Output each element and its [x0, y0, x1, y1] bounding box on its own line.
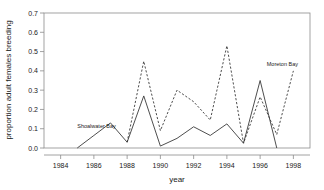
x-tick-label: 1990 [153, 162, 169, 169]
y-tick-label: 0.3 [28, 87, 38, 94]
x-axis-group: 19841986198819901992199419961998 [44, 155, 310, 169]
y-axis-title: proportion adult females breeding [4, 20, 13, 139]
series-annotation-shoalwater-bay: Shoalwater Bay [77, 123, 116, 129]
y-tick-label: 0.7 [28, 10, 38, 17]
x-axis-title: year [169, 175, 185, 184]
x-tick-label: 1988 [119, 162, 135, 169]
annotation-group: Shoalwater BayMoreton Bay [77, 61, 298, 129]
series-group [77, 46, 293, 148]
y-tick-label: 0.0 [28, 145, 38, 152]
y-tick-label: 0.4 [28, 67, 38, 74]
y-tick-label: 0.5 [28, 48, 38, 55]
chart-figure: 0.00.10.20.30.40.50.60.7 198419861988199… [0, 0, 324, 190]
line-chart: 0.00.10.20.30.40.50.60.7 198419861988199… [0, 0, 324, 190]
y-tick-label: 0.2 [28, 106, 38, 113]
x-tick-label: 1984 [53, 162, 69, 169]
x-tick-label: 1998 [286, 162, 302, 169]
x-tick-label: 1996 [252, 162, 268, 169]
y-tick-label: 0.6 [28, 29, 38, 36]
y-axis-group: 0.00.10.20.30.40.50.60.7 [28, 10, 44, 152]
y-tick-label: 0.1 [28, 125, 38, 132]
x-tick-label: 1994 [219, 162, 235, 169]
series-annotation-moreton-bay: Moreton Bay [267, 61, 298, 67]
x-tick-label: 1992 [186, 162, 202, 169]
x-tick-label: 1986 [86, 162, 102, 169]
